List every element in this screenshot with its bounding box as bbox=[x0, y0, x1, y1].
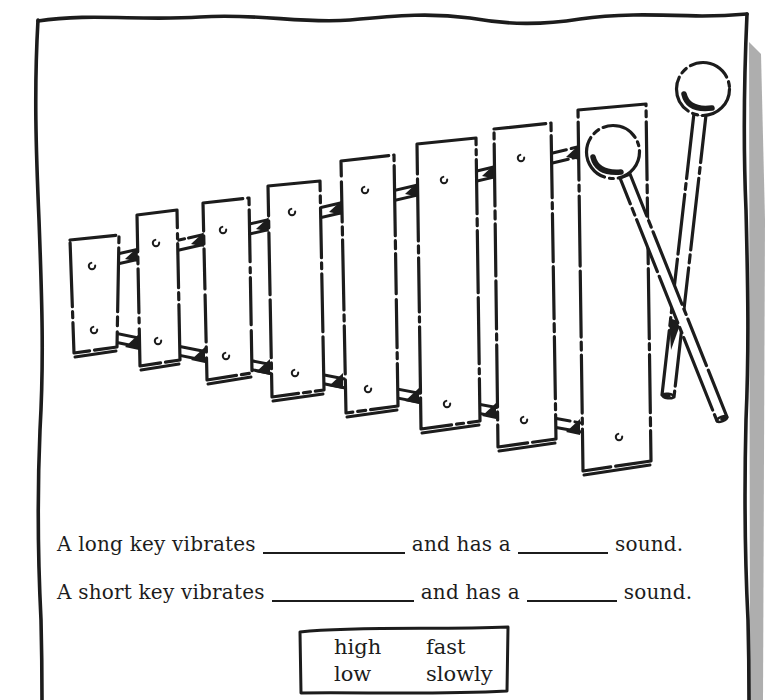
question-2-conj: and has a bbox=[421, 580, 520, 604]
xylophone-bar-4 bbox=[268, 181, 324, 401]
mallet-right-head-group bbox=[677, 63, 730, 116]
question-1-conj: and has a bbox=[412, 532, 511, 556]
page-shadow bbox=[749, 42, 765, 700]
word-bank-word-low: low bbox=[334, 661, 426, 688]
question-1-suffix: sound. bbox=[615, 532, 683, 556]
question-line-2: A short key vibratesand has asound. bbox=[57, 580, 692, 604]
worksheet-page: A long key vibratesand has asound. A sho… bbox=[0, 0, 784, 700]
answer-blank-1b bbox=[518, 550, 608, 554]
answer-blank-2b bbox=[527, 598, 617, 602]
word-bank-word-slowly: slowly bbox=[426, 661, 508, 688]
xylophone-bar-3 bbox=[203, 198, 252, 384]
xylophone-bar-2 bbox=[137, 210, 180, 370]
xylophone-bar-1 bbox=[70, 235, 119, 357]
answer-blank-2a bbox=[272, 598, 414, 602]
word-bank-word-high: high bbox=[334, 634, 426, 661]
question-1-prefix: A long key vibrates bbox=[57, 532, 256, 556]
word-bank: high fast low slowly bbox=[300, 628, 508, 693]
xylophone-bar-5 bbox=[341, 155, 398, 417]
question-2-prefix: A short key vibrates bbox=[57, 580, 265, 604]
xylophone-bar-7 bbox=[494, 123, 556, 451]
word-bank-word-fast: fast bbox=[426, 634, 508, 661]
question-2-suffix: sound. bbox=[624, 580, 692, 604]
xylophone-bar-6 bbox=[417, 138, 480, 433]
page-border-top bbox=[38, 14, 747, 23]
page-border-right bbox=[744, 14, 749, 700]
page-border-left bbox=[36, 20, 42, 700]
question-line-1: A long key vibratesand has asound. bbox=[57, 532, 683, 556]
answer-blank-1a bbox=[263, 550, 405, 554]
